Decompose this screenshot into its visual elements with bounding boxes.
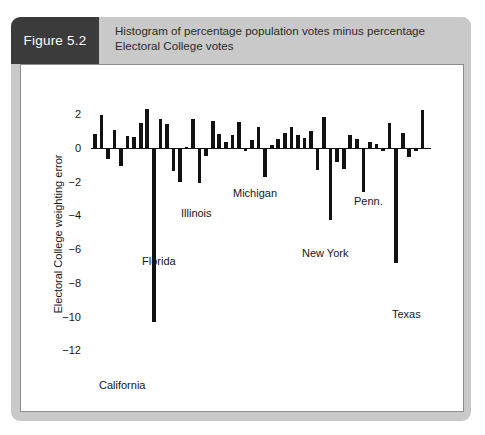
bar (309, 131, 313, 148)
bar (198, 148, 202, 183)
bar (159, 119, 163, 148)
bar (204, 148, 208, 156)
figure-header: Figure 5.2 Histogram of percentage popul… (11, 17, 471, 64)
state-label-florida: Florida (142, 255, 176, 267)
bar (126, 136, 130, 148)
bar (145, 109, 149, 148)
bar (132, 137, 136, 148)
state-label-penn: Penn. (354, 195, 383, 207)
bar (263, 148, 267, 177)
bar (231, 135, 235, 148)
bar (407, 148, 411, 157)
bar (276, 139, 280, 148)
bar (329, 148, 333, 220)
bar (296, 135, 300, 148)
chart-plot-area: Electoral College weighting error 20−2−4… (20, 64, 464, 412)
bar (152, 148, 156, 322)
y-tick-label: −12 (41, 344, 81, 356)
bar (401, 133, 405, 148)
state-label-texas: Texas (392, 308, 421, 320)
y-tick-label: 0 (41, 142, 81, 154)
bar (414, 148, 418, 151)
bar (119, 148, 123, 166)
bar (342, 148, 346, 169)
bar (165, 124, 169, 148)
bar (224, 142, 228, 148)
bar (237, 122, 241, 148)
y-tick-label: −10 (41, 311, 81, 323)
state-label-illinois: Illinois (181, 207, 212, 219)
bar (244, 148, 248, 151)
figure-caption: Histogram of percentage population votes… (115, 24, 445, 53)
figure-number-tag: Figure 5.2 (11, 17, 99, 64)
bar (381, 148, 385, 151)
y-tick-label: −2 (41, 176, 81, 188)
bar (185, 147, 189, 149)
bar (388, 123, 392, 148)
bar (178, 148, 182, 182)
bar (113, 130, 117, 148)
state-label-new-york: New York (302, 247, 348, 259)
bar (394, 148, 398, 263)
y-tick-label: −6 (41, 243, 81, 255)
y-tick-label: 2 (41, 108, 81, 120)
bar (368, 142, 372, 148)
bar (316, 148, 320, 170)
bar (172, 148, 176, 171)
bar (106, 148, 110, 159)
bar (250, 140, 254, 148)
bar (335, 148, 339, 162)
bar (139, 123, 143, 148)
bar (283, 133, 287, 148)
bar (348, 135, 352, 148)
y-tick-label: −4 (41, 209, 81, 221)
zero-axis-line (91, 148, 431, 149)
bar (375, 144, 379, 148)
figure-card: Figure 5.2 Histogram of percentage popul… (11, 17, 471, 421)
bar (421, 110, 425, 148)
state-label-california: California (99, 379, 145, 391)
bar (303, 138, 307, 148)
bar (257, 127, 261, 148)
y-tick-label: −8 (41, 277, 81, 289)
bar (290, 127, 294, 148)
bar (93, 134, 97, 148)
bar (217, 134, 221, 148)
bar (355, 139, 359, 148)
bar (322, 117, 326, 148)
bar (100, 115, 104, 148)
state-label-michigan: Michigan (233, 187, 277, 199)
bar (270, 145, 274, 148)
bar (362, 148, 366, 192)
bar (191, 119, 195, 148)
bar (211, 121, 215, 148)
